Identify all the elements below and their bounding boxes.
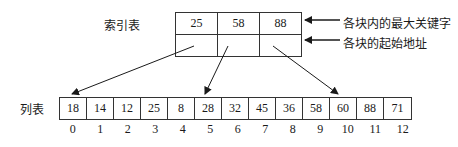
pointer-arrow-block1-icon: [205, 46, 228, 94]
pointer-arrow-block2-icon: [273, 46, 338, 94]
arrows-layer: [0, 0, 458, 147]
pointer-arrow-block0-icon: [72, 46, 194, 94]
